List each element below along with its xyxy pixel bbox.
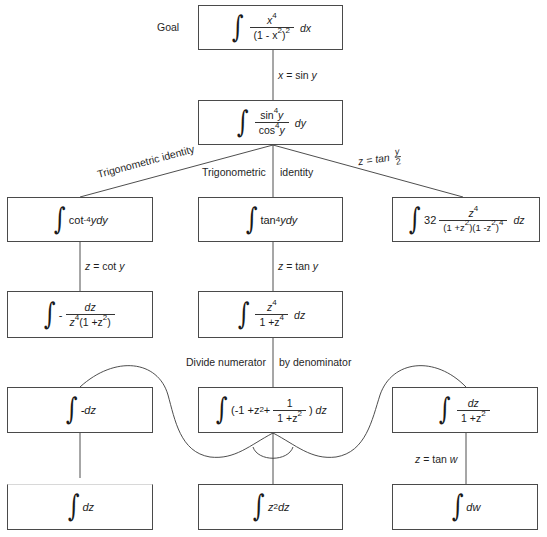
edge-label-trig-identity-mid-a: Trigonometric xyxy=(202,166,266,178)
integral-sign-icon: ∫ xyxy=(237,107,249,137)
node-goal-integral[interactable]: ∫ x4 (1 - x2)2 dx xyxy=(198,5,343,50)
node-sin-cos-integral[interactable]: ∫ sin4y cos4y dy xyxy=(198,100,343,145)
integral-sign-icon: ∫ xyxy=(253,491,265,521)
integral-sign-icon: ∫ xyxy=(68,491,80,521)
node-negative-dz-integral[interactable]: ∫ -dz xyxy=(7,387,153,433)
node-arctan-form-integral[interactable]: ∫ dz 1 +z2 xyxy=(392,387,538,433)
integral-sign-icon: ∫ xyxy=(66,394,78,424)
node-tan-substituted-integral[interactable]: ∫ z4 1 +z4 dz xyxy=(198,291,343,338)
edge-label-x-sin-y: x = sin y xyxy=(278,69,317,81)
fraction: z4 1 +z4 xyxy=(255,301,288,328)
integral-sign-icon: ∫ xyxy=(232,12,244,42)
node-cot-substituted-integral[interactable]: ∫ - dz z4(1 +z2) xyxy=(7,291,153,338)
edge-label-trig-identity-mid-b: identity xyxy=(280,166,313,178)
fraction: dz 1 +z2 xyxy=(457,397,490,424)
node-z-squared-integral[interactable]: ∫ z2dz xyxy=(198,484,343,530)
integral-sign-icon: ∫ xyxy=(54,204,66,234)
fraction: 1 1 +z2 xyxy=(273,397,306,424)
edge-label-z-tan-y: z = tan y xyxy=(278,260,318,272)
node-cot-integral[interactable]: ∫ cot-4ydy xyxy=(7,197,153,242)
integration-strategy-diagram: Goal ∫ x4 (1 - x2)2 dx x = sin y ∫ sin4y… xyxy=(0,0,547,537)
integral-sign-icon: ∫ xyxy=(246,204,258,234)
integral-sign-icon: ∫ xyxy=(452,491,464,521)
edge-label-z-cot-y: z = cot y xyxy=(85,260,124,272)
goal-label: Goal xyxy=(157,21,179,33)
node-weierstrass-integral[interactable]: ∫ 32 z4 (1 +z2)(1 -z2)4 dz xyxy=(392,197,540,242)
integral-sign-icon: ∫ xyxy=(409,204,421,234)
node-tan-integral[interactable]: ∫ tan4ydy xyxy=(198,197,343,242)
fraction: sin4y cos4y xyxy=(255,109,289,136)
integral-sign-icon: ∫ xyxy=(44,299,56,329)
node-dz-integral[interactable]: ∫ dz xyxy=(7,484,153,530)
integral-sign-icon: ∫ xyxy=(439,394,451,424)
edge-label-divide-numerator: Divide numerator xyxy=(186,356,266,368)
node-division-integral[interactable]: ∫ (-1 +z2+ 1 1 +z2 ) dz xyxy=(198,387,343,433)
integral-sign-icon: ∫ xyxy=(216,394,228,424)
connector-lines xyxy=(0,0,547,537)
integral-sign-icon: ∫ xyxy=(238,299,250,329)
fraction: x4 (1 - x2)2 xyxy=(250,14,294,41)
edge-label-by-denominator: by denominator xyxy=(279,356,351,368)
fraction: dz z4(1 +z2) xyxy=(66,301,115,328)
node-dw-integral[interactable]: ∫ dw xyxy=(392,484,538,530)
edge-label-z-tan-w: z = tan w xyxy=(415,453,457,465)
fraction: z4 (1 +z2)(1 -z2)4 xyxy=(439,207,507,233)
